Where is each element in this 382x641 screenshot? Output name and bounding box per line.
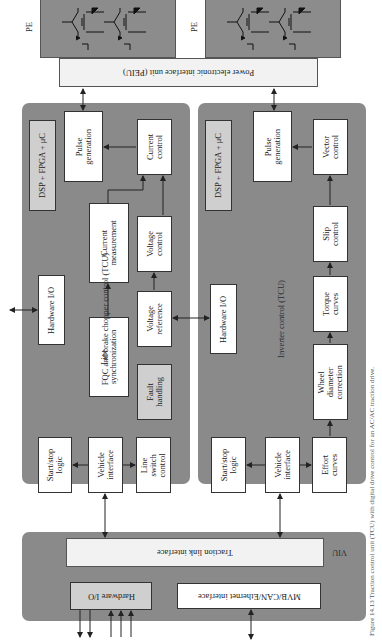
inv-vehicle-interface: Vehicle interface (265, 437, 300, 493)
viu-label: VIU (332, 548, 347, 558)
fqc-processor-label: DSP + FPGA + μC (38, 133, 47, 198)
viu-bus-interface: MVB/CAN/Ethernet interface (177, 583, 321, 609)
fqc-vehicle-interface: Vehicle interface (88, 437, 123, 493)
viu-bus-interface-label: MVB/CAN/Ethernet interface (198, 592, 301, 601)
inv-effort-curves: Effort curves (312, 437, 347, 493)
fqc-tcu-title: FQC and brake chopper control (TCU) (100, 244, 110, 394)
inv-start-stop-logic: Start/stop logic (211, 437, 246, 493)
fqc-voltage-control-label: Voltage control (146, 228, 164, 261)
fqc-hardware-io: Hardware I/O (38, 275, 65, 345)
traction-link-interface-label: Traction link interface (157, 548, 233, 557)
fqc-pulse-generation: Pulse generation (64, 111, 103, 182)
inverter-tcu-title: Inverter control (TCU) (276, 244, 286, 394)
figure-caption: Figure 14.13 Traction control unit (TCU)… (368, 367, 376, 636)
fqc-current-control-label: Current control (146, 131, 164, 164)
inv-processor-label: DSP + FPGA + μC (214, 133, 223, 198)
inv-processor-box: DSP + FPGA + μC (205, 120, 232, 211)
inv-wheel-diameter-correction: Wheel diameter correction (313, 344, 348, 420)
inv-vehicle-interface-label: Vehicle interface (274, 449, 292, 482)
inv-pulse-generation-label: Pulse generation (264, 128, 282, 165)
fqc-voltage-control: Voltage control (137, 216, 172, 272)
fqc-pulse-generation-label: Pulse generation (75, 128, 93, 165)
fqc-fault-handling-label: Fault handling (146, 376, 164, 409)
fqc-line-switch-control-label: Line switch control (140, 448, 167, 481)
fqc-fault-handling: Fault handling (137, 364, 172, 420)
inv-pulse-generation: Pulse generation (253, 111, 292, 182)
fqc-start-stop-logic: Start/stop logic (38, 437, 72, 493)
fqc-voltage-reference: Voltage reference (137, 291, 172, 347)
fqc-current-control: Current control (137, 119, 172, 175)
fqc-start-stop-logic-label: Start/stop logic (46, 449, 64, 482)
fqc-vehicle-interface-label: Vehicle interface (97, 449, 115, 482)
viu-hardware-io: Hardware I/O (70, 582, 152, 610)
inv-effort-curves-label: Effort curves (321, 449, 339, 482)
inv-vector-control: Vector control (313, 119, 348, 175)
inv-hardware-io: Hardware I/O (210, 284, 237, 354)
fqc-line-switch-control: Line switch control (136, 437, 171, 493)
inv-torque-curves-label: Torque curves (322, 288, 340, 321)
power-electronics-left (40, 0, 176, 58)
inv-slip-control: Slip control (313, 206, 348, 262)
inv-slip-control-label: Slip control (322, 218, 340, 251)
fqc-processor-box: DSP + FPGA + μC (29, 120, 56, 211)
inv-wheel-diameter-correction-label: Wheel diameter correction (317, 365, 344, 399)
peiu-label: Power electronic interface unit (PEIU) (123, 68, 254, 77)
pe-right-label: PE (189, 22, 199, 32)
inv-hardware-io-label: Hardware I/O (219, 296, 228, 343)
inv-torque-curves: Torque curves (313, 276, 348, 332)
pe-left-label: PE (24, 22, 34, 32)
fqc-hardware-io-label: Hardware I/O (47, 287, 56, 334)
power-electronics-right (205, 0, 341, 58)
viu-hardware-io-label: Hardware I/O (88, 592, 135, 601)
traction-link-interface: Traction link interface (66, 538, 324, 567)
peiu-bar: Power electronic interface unit (PEIU) (59, 58, 318, 87)
inv-start-stop-logic-label: Start/stop logic (220, 449, 238, 482)
fqc-voltage-reference-label: Voltage reference (146, 303, 164, 336)
inv-vector-control-label: Vector control (322, 131, 340, 164)
